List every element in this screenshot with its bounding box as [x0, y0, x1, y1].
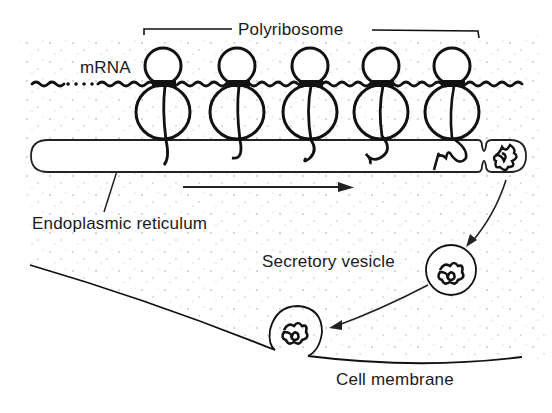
secretory-vesicle — [426, 245, 476, 295]
cell-membrane-label: Cell membrane — [336, 371, 454, 388]
mrna-label: mRNA — [80, 59, 131, 76]
polyribosome-label: Polyribosome — [238, 21, 343, 38]
er-label: Endoplasmic reticulum — [32, 215, 207, 232]
secretory-vesicle-label: Secretory vesicle — [262, 253, 395, 270]
